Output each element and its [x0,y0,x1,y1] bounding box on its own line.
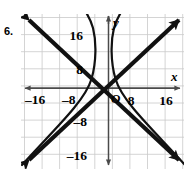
x-tick-label-neg16: –16 [24,92,46,107]
y-tick-label-neg16: –16 [66,148,88,163]
y-tick-label-16: 16 [70,28,84,43]
x-axis-name-label: x [170,69,178,84]
problem-number-label: 6. [4,26,13,37]
x-tick-label-16: 16 [159,93,173,108]
figure-container: 6. [0,0,193,181]
y-axis-name-label: y [111,15,119,30]
origin-label: O [111,91,121,106]
y-tick-label-neg8: –8 [73,114,88,129]
graph-svg: 16 8 –8 –16 –16 –8 8 16 O x y [21,14,184,169]
coordinate-graph: 16 8 –8 –16 –16 –8 8 16 O x y [21,14,184,169]
y-tick-label-8: 8 [76,62,83,77]
x-tick-label-8: 8 [128,93,135,108]
x-tick-label-neg8: –8 [61,92,76,107]
